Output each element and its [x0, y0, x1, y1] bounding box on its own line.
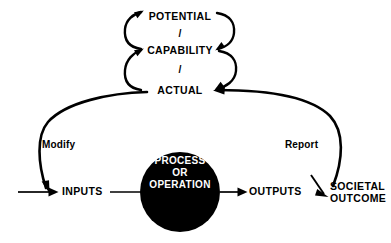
cycle-separator-2: / [179, 64, 182, 75]
flow-label-inputs: INPUTS [62, 186, 103, 197]
flow-label-societal-outcome: SOCIETAL OUTCOME [330, 180, 386, 205]
process-node-label: PROCESS OR OPERATION [138, 155, 222, 192]
feedback-label-report: Report [285, 140, 318, 151]
diagram-connectors [0, 0, 391, 243]
diagram-canvas: POTENTIAL / CAPABILITY / ACTUAL Modify R… [0, 0, 391, 243]
connector-report-societal-to-actual [213, 86, 341, 186]
connector-outputs-to-societal-outcome [311, 175, 329, 197]
cycle-label-potential: POTENTIAL [149, 11, 212, 22]
feedback-label-modify: Modify [42, 140, 75, 151]
connector-capability-to-potential [125, 11, 144, 49]
cycle-label-actual: ACTUAL [157, 85, 202, 96]
connector-entry-to-inputs [18, 188, 59, 197]
cycle-separator-1: / [179, 28, 182, 39]
process-node-label-line-2: OR [138, 167, 222, 179]
connector-capability-to-actual [214, 51, 236, 91]
connector-actual-to-capability [125, 49, 144, 90]
connector-potential-to-capability [215, 13, 234, 50]
process-node-label-line-3: OPERATION [138, 179, 222, 191]
cycle-label-capability: CAPABILITY [147, 45, 213, 56]
flow-label-outputs: OUTPUTS [249, 186, 302, 197]
process-node-label-line-1: PROCESS [138, 155, 222, 167]
societal-outcome-line-2: OUTCOME [330, 192, 386, 204]
connector-process-to-outputs [220, 188, 248, 197]
societal-outcome-line-1: SOCIETAL [330, 180, 386, 192]
